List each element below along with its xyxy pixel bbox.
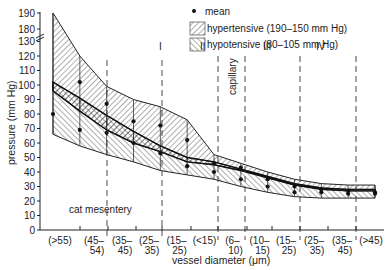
hypertensive-mean-point	[266, 177, 270, 181]
y-tick-label: 10	[24, 210, 36, 221]
chart-svg: 0102030405060708090100110120130180190(>5…	[0, 0, 387, 270]
y-tick-label: 180	[18, 24, 35, 35]
hypotensive-mean-point	[266, 184, 270, 188]
y-tick-label: 70	[24, 123, 36, 134]
hypertensive-mean-point	[292, 184, 296, 188]
hypertensive-mean-point	[212, 161, 216, 165]
y-tick-label: 130	[18, 36, 35, 47]
y-tick-label: 0	[29, 225, 35, 236]
y-tick-label: 30	[24, 181, 36, 192]
hypotensive-mean-point	[239, 177, 243, 181]
x-tick-label: 45)	[338, 245, 352, 256]
annotation-cat-mesentery: cat mesentery	[69, 204, 132, 215]
hypertensive-mean-point	[373, 190, 377, 194]
legend-label-hypotensive: hypotensive (80–105 mm Hg)	[207, 39, 338, 50]
y-tick-label: 20	[24, 196, 36, 207]
x-tick-label: 45)	[118, 245, 132, 256]
x-tick-label: 54)	[90, 245, 104, 256]
y-axis-title: pressure (mm Hg)	[5, 80, 17, 165]
y-tick-label: 60	[24, 138, 36, 149]
legend-label-hypertensive: hypertensive (190–150 mm Hg)	[207, 23, 347, 34]
y-tick-label: 50	[24, 152, 36, 163]
legend: mean hypertensive (190–150 mm Hg) hypote…	[190, 6, 347, 51]
x-tick-label: 25)	[282, 245, 296, 256]
hypotensive-mean-point	[185, 164, 189, 168]
hypertensive-mean-point	[131, 119, 135, 123]
y-tick-label: 40	[24, 167, 36, 178]
hypertensive-mean-point	[185, 138, 189, 142]
x-tick-label: 35)	[145, 245, 159, 256]
hypertensive-mean-point	[105, 102, 109, 106]
y-tick-label: 120	[18, 51, 35, 62]
legend-hatch-hypotensive-icon	[190, 38, 205, 51]
region-label-capillary: capillary	[227, 58, 238, 95]
x-tick-label: 35)	[310, 245, 324, 256]
hypotensive-mean-point	[51, 112, 55, 116]
hypotensive-mean-point	[158, 151, 162, 155]
hypotensive-mean-point	[78, 128, 82, 132]
legend-dot-icon	[192, 9, 196, 13]
hypertensive-mean-point	[346, 189, 350, 193]
legend-hatch-hypertensive-icon	[190, 22, 205, 35]
region-label-I: I	[159, 41, 162, 52]
hypertensive-mean-point	[158, 124, 162, 128]
x-tick-label: (>45)	[359, 235, 383, 246]
y-tick-label: 80	[24, 109, 36, 120]
x-tick-label: (>55)	[48, 235, 72, 246]
x-axis-title: vessel diameter (μm)	[172, 254, 270, 266]
hypertensive-mean-point	[239, 166, 243, 170]
pressure-vs-diameter-chart: 0102030405060708090100110120130180190(>5…	[0, 0, 387, 270]
hypotensive-mean-point	[131, 141, 135, 145]
hypotensive-mean-point	[292, 190, 296, 194]
y-tick-label: 100	[18, 80, 35, 91]
y-tick-label: 190	[18, 8, 35, 19]
hypertensive-mean-point	[319, 187, 323, 191]
hypertensive-mean-point	[78, 80, 82, 84]
legend-label-mean: mean	[205, 6, 230, 17]
y-tick-label: 90	[24, 94, 36, 105]
x-tick-label: (<15)	[193, 235, 217, 246]
hypotensive-mean-point	[212, 170, 216, 174]
y-tick-label: 110	[19, 65, 35, 76]
hypotensive-mean-point	[105, 131, 109, 135]
